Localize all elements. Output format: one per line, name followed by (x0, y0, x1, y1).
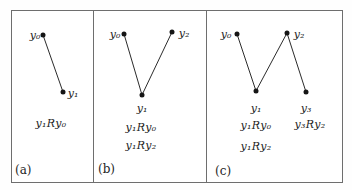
node-b-y1-label: y₁ (137, 103, 148, 114)
relation-b-0: y₁Ry₀ (126, 122, 157, 133)
edge-b-y2-y1 (142, 32, 172, 95)
node-b-y1-dot (140, 93, 145, 98)
panel-c-letter: (c) (215, 165, 231, 177)
relation-b-1: y₁Ry₂ (126, 140, 157, 151)
node-b-y0-label: y₀ (110, 29, 121, 40)
edge-c-y2-y1 (256, 33, 287, 91)
node-c-y0-dot (235, 32, 240, 37)
edge-a-y0-y1 (43, 35, 63, 92)
edge-c-y2-y3 (287, 33, 306, 92)
node-c-y2-dot (285, 31, 290, 36)
node-b-y0-dot (122, 32, 127, 37)
node-b-y2-label: y₂ (179, 28, 190, 39)
node-c-y3-dot (304, 90, 309, 95)
panel-divider-bc (206, 11, 207, 182)
edge-b-y0-y1 (124, 34, 142, 95)
node-b-y2-dot (170, 30, 175, 35)
node-a-y1-label: y₁ (68, 88, 79, 99)
panel-divider-ab (93, 11, 94, 182)
node-c-y1-label: y₁ (251, 103, 262, 114)
node-c-y1-dot (254, 89, 259, 94)
node-c-y2-label: y₂ (294, 29, 305, 40)
relation-c-0: y₁Ry₀ (241, 120, 272, 131)
node-a-y0-dot (41, 33, 46, 38)
relation-a-0: y₁Ry₀ (36, 118, 67, 129)
relation-c-1: y₃Ry₂ (295, 119, 326, 130)
figure-page: y₀ y₁ y₁Ry₀ (a) y₀ y₂ y₁ y₁Ry₀ y₁Ry₂ (b)… (0, 0, 352, 190)
relation-c-2: y₁Ry₂ (241, 141, 272, 152)
node-c-y0-label: y₀ (221, 29, 232, 40)
panel-a-letter: (a) (15, 164, 32, 176)
graph-canvas (12, 11, 342, 182)
node-a-y0-label: y₀ (30, 30, 41, 41)
figure-frame: y₀ y₁ y₁Ry₀ (a) y₀ y₂ y₁ y₁Ry₀ y₁Ry₂ (b)… (11, 10, 343, 183)
panel-b-letter: (b) (98, 163, 115, 175)
node-c-y3-label: y₃ (301, 103, 312, 114)
edge-c-y0-y1 (237, 34, 256, 91)
node-a-y1-dot (61, 90, 66, 95)
